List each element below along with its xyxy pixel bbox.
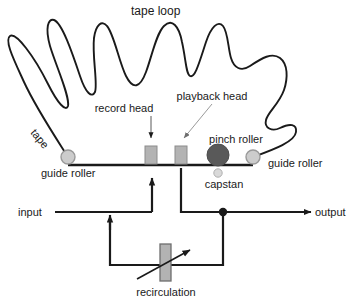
tape-label: tape xyxy=(28,127,51,151)
guide-roller-left-label: guide roller xyxy=(41,167,96,179)
recirculation-return-line xyxy=(171,212,223,265)
tape-loop-title: tape loop xyxy=(131,4,181,18)
recirculation-feed-line xyxy=(110,222,160,265)
record-head-label: record head xyxy=(95,102,154,114)
recirculation-group: recirculation xyxy=(110,212,223,298)
playback-head-label: playback head xyxy=(177,90,248,102)
pinch-roller-icon xyxy=(207,144,229,166)
guide-roller-right-icon xyxy=(246,150,260,164)
diagram-canvas: tape loop tape record head playback head… xyxy=(0,0,357,300)
guide-roller-right-label: guide roller xyxy=(268,157,323,169)
capstan-icon xyxy=(214,169,222,177)
input-label: input xyxy=(18,206,42,218)
output-label: output xyxy=(315,206,346,218)
pinch-roller-label: pinch roller xyxy=(209,133,263,145)
capstan-label: capstan xyxy=(205,178,244,190)
guide-roller-left-icon xyxy=(61,150,75,164)
playback-head-leader xyxy=(184,104,212,138)
recirculation-label: recirculation xyxy=(136,286,195,298)
tape-loop-diagram: tape loop tape record head playback head… xyxy=(0,0,357,300)
playback-head-icon xyxy=(175,146,187,164)
record-head-icon xyxy=(145,146,157,164)
